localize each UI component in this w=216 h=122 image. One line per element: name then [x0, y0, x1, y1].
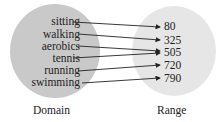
arrow-running-720 [78, 65, 160, 71]
range-caption: Range [157, 104, 186, 116]
arrow-swimming-790 [82, 78, 160, 83]
arrow-tennis-505 [73, 53, 160, 58]
arrow-aerobics-505 [78, 46, 160, 51]
arrow-sitting-80 [73, 22, 160, 27]
mapping-diagram: sitting walking aerobics tennis running … [0, 0, 216, 122]
domain-caption: Domain [33, 104, 70, 116]
arrow-walking-325 [78, 34, 160, 40]
